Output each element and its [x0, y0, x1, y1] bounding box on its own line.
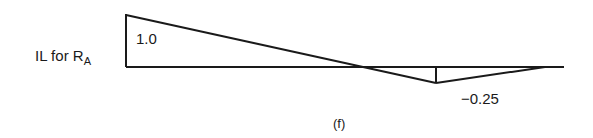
- influence-line-diagram: [0, 0, 593, 138]
- influence-line-label: IL for RA: [35, 47, 91, 67]
- label-subscript: A: [84, 55, 91, 67]
- max-value-label: 1.0: [136, 30, 157, 47]
- influence-slope-positive: [126, 15, 436, 83]
- label-prefix: IL for R: [35, 47, 84, 64]
- figure-caption: (f): [333, 116, 345, 131]
- influence-slope-return: [436, 67, 545, 83]
- min-value-label: −0.25: [461, 90, 499, 107]
